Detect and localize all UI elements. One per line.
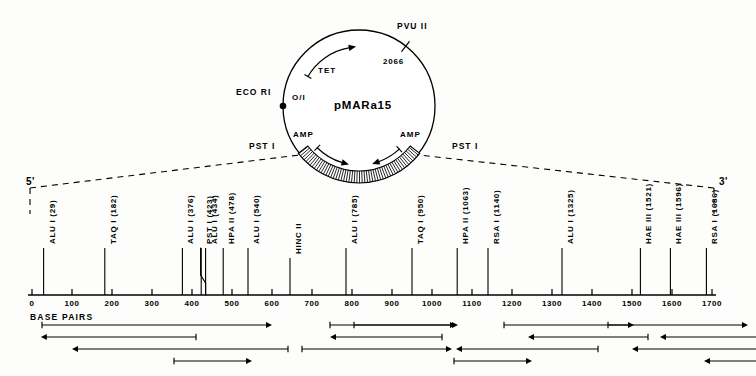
plasmid-site-psti-right-label: PST I — [452, 141, 478, 151]
restriction-site-label: HPA II (478) — [227, 192, 236, 244]
plasmid-name-label: pMARa15 — [334, 99, 392, 111]
sequencing-arrow-r0-4-head — [742, 322, 748, 328]
restriction-site-label: ALU I (785) — [350, 195, 359, 245]
plasmid-coordinate-2066-label: 2066 — [383, 57, 404, 66]
five-prime-end-label: 5' — [26, 176, 35, 187]
plasmid-amp-gene-right-label: AMP — [400, 130, 421, 139]
axis-tick-label: 1200 — [492, 299, 532, 308]
restriction-site-label: HAE III (1596) — [674, 183, 683, 244]
restriction-site-label: RSA I (1686) — [710, 189, 719, 244]
plasmid-ecori-cut-marker — [280, 103, 287, 110]
restriction-site-label: ALU I (29) — [48, 200, 57, 244]
plasmid-site-psti-left-label: PST I — [249, 141, 275, 151]
plasmid-site-pvu2-label: PVU II — [397, 21, 428, 31]
axis-tick-label: 100 — [52, 299, 92, 308]
diagram-artwork — [0, 0, 756, 376]
axis-tick-label: 0 — [12, 299, 52, 308]
figure-canvas: pMARa15 PVU II ECO RI PST I PST I 2066 O… — [0, 0, 756, 376]
expansion-guide-left — [30, 155, 301, 188]
axis-tick-label: 800 — [332, 299, 372, 308]
axis-tick-label: 500 — [212, 299, 252, 308]
restriction-site-label: HINC II — [294, 223, 303, 254]
restriction-site-label: RSA I (1140) — [492, 190, 501, 244]
restriction-site-label: ALU I (1325) — [566, 189, 575, 244]
sequencing-arrow-r2-1-head — [446, 346, 452, 352]
expansion-guide-right — [417, 155, 714, 188]
axis-tick-label: 600 — [252, 299, 292, 308]
sequencing-arrow-r1-0-head — [41, 334, 47, 340]
sequencing-arrow-r0-0-head — [266, 322, 272, 328]
axis-tick-label: 1400 — [572, 299, 612, 308]
axis-tick-label: 1300 — [532, 299, 572, 308]
axis-tick-label: 1500 — [612, 299, 652, 308]
sequencing-arrow-r2-0-head — [72, 346, 78, 352]
axis-tick-label: 1000 — [412, 299, 452, 308]
axis-tick-label: 1700 — [692, 299, 732, 308]
three-prime-end-label: 3' — [719, 176, 728, 187]
axis-tick-label: 1100 — [452, 299, 492, 308]
axis-tick-label: 900 — [372, 299, 412, 308]
plasmid-tet-gene-label: TET — [318, 66, 336, 75]
sequencing-arrow-r1-1-head — [330, 334, 336, 340]
restriction-site-label: TAQ I (182) — [109, 195, 118, 244]
axis-tick-label: 1600 — [652, 299, 692, 308]
sequencing-arrow-r3-2-head — [704, 358, 710, 364]
sequencing-arrow-r1-3-head — [660, 334, 666, 340]
sequencing-arrow-r3-1-head — [526, 358, 532, 364]
restriction-site-label: ALU I (376) — [186, 195, 195, 245]
restriction-site-label: HAE III (1521) — [644, 183, 653, 244]
restriction-site-label: ALU I (540) — [252, 195, 261, 245]
sequencing-arrow-r1-2-head — [528, 334, 534, 340]
restriction-site-label: TAQ I (950) — [416, 195, 425, 244]
axis-tick-label: 300 — [132, 299, 172, 308]
base-pairs-axis-title: BASE PAIRS — [30, 312, 93, 322]
sequencing-arrow-r2-2-head — [456, 346, 462, 352]
axis-tick-label: 400 — [172, 299, 212, 308]
sequencing-arrow-r2-3-head — [632, 346, 638, 352]
plasmid-amp-gene-left-label: AMP — [293, 130, 314, 139]
axis-tick-label: 200 — [92, 299, 132, 308]
plasmid-origin-label: O/I — [292, 93, 306, 102]
sequencing-arrow-r3-0-head — [246, 358, 252, 364]
axis-tick-label: 700 — [292, 299, 332, 308]
restriction-site-label: ALU I (434) — [210, 195, 219, 245]
plasmid-site-ecori-label: ECO RI — [236, 87, 271, 97]
restriction-site-label: HPA II (1063) — [461, 187, 470, 244]
